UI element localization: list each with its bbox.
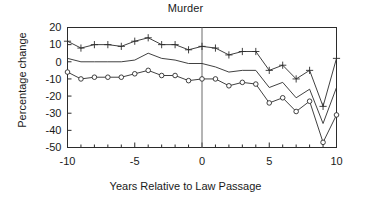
data-point-marker-circle xyxy=(92,75,97,80)
data-point-marker-plus xyxy=(306,67,313,74)
data-point-marker-plus xyxy=(239,48,246,55)
data-point-marker-plus xyxy=(198,43,205,50)
data-point-marker-plus xyxy=(104,41,111,48)
data-point-marker-circle xyxy=(173,73,178,78)
data-point-marker-circle xyxy=(240,80,245,85)
data-point-marker-circle xyxy=(79,77,84,82)
data-point-marker-circle xyxy=(267,101,272,106)
data-point-marker-plus xyxy=(118,43,125,50)
y-tick-label: -10 xyxy=(46,73,62,85)
data-point-marker-circle xyxy=(213,77,218,82)
data-point-marker-circle xyxy=(254,82,259,87)
x-tick-label: 5 xyxy=(266,155,272,167)
y-tick-label: -20 xyxy=(46,90,62,102)
data-point-marker-circle xyxy=(186,78,191,83)
y-tick-label-group: 20100-10-20-30-40-50 xyxy=(46,21,62,153)
data-point-marker-circle xyxy=(307,99,312,104)
data-point-marker-plus xyxy=(266,67,273,74)
data-point-marker-circle xyxy=(106,75,111,80)
y-tick-mark-group xyxy=(68,28,72,148)
data-point-marker-circle xyxy=(321,140,326,145)
data-point-marker-circle xyxy=(146,68,151,73)
data-point-marker-plus xyxy=(319,103,326,110)
data-point-marker-circle xyxy=(132,71,137,76)
y-tick-label: 0 xyxy=(55,56,61,68)
x-tick-label: -10 xyxy=(60,155,76,167)
data-point-marker-circle xyxy=(119,75,124,80)
x-tick-label: 0 xyxy=(199,155,205,167)
data-point-marker-circle xyxy=(200,77,205,82)
data-point-marker-plus xyxy=(333,55,340,62)
data-point-marker-circle xyxy=(227,83,232,88)
y-tick-label: 20 xyxy=(49,21,61,33)
plot-area: 20100-10-20-30-40-50 -10-50510 xyxy=(0,0,371,203)
data-point-marker-circle xyxy=(294,109,299,114)
data-point-marker-plus xyxy=(225,51,232,58)
chart-figure: Murder Percentage change Years Relative … xyxy=(0,0,371,203)
data-point-marker-plus xyxy=(185,46,192,53)
data-point-marker-circle xyxy=(159,73,164,78)
y-tick-label: -40 xyxy=(46,124,62,136)
data-point-marker-circle xyxy=(334,113,339,118)
data-point-marker-plus xyxy=(212,44,219,51)
data-point-marker-plus xyxy=(172,41,179,48)
y-tick-label: -30 xyxy=(46,107,62,119)
y-tick-label: 10 xyxy=(49,38,61,50)
x-tick-label-group: -10-50510 xyxy=(60,155,343,167)
data-point-marker-plus xyxy=(131,38,138,45)
y-tick-label: -50 xyxy=(46,141,62,153)
x-tick-label: -5 xyxy=(130,155,140,167)
data-point-marker-plus xyxy=(252,48,259,55)
data-point-marker-circle xyxy=(280,95,285,100)
data-point-marker-plus xyxy=(145,34,152,41)
data-point-marker-plus xyxy=(158,41,165,48)
data-point-marker-plus xyxy=(64,38,71,45)
data-point-marker-plus xyxy=(77,44,84,51)
x-tick-label: 10 xyxy=(330,155,342,167)
data-point-marker-plus xyxy=(91,41,98,48)
data-point-marker-circle xyxy=(65,70,70,75)
